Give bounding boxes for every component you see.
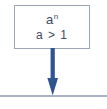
expression-exponent: n [54, 11, 58, 20]
expression-box: an a > 1 [14, 5, 90, 49]
expression-condition: a > 1 [36, 28, 68, 43]
expression-base: a [46, 12, 54, 27]
down-arrow-icon [40, 48, 66, 97]
expression-power: an [46, 12, 58, 28]
figure-canvas: an a > 1 [0, 0, 107, 109]
baseline-rule [0, 95, 107, 97]
